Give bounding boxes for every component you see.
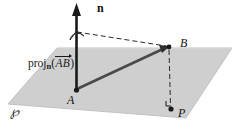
vector-projection-diagram: A B P n ℘ projn(AB) bbox=[0, 0, 235, 133]
point-p-dot bbox=[168, 106, 173, 111]
projection-label: projn(AB) bbox=[28, 58, 74, 70]
dashed-line-n-to-b bbox=[77, 32, 166, 46]
point-label-p: P bbox=[178, 107, 185, 119]
projection-label-word: proj bbox=[28, 58, 47, 70]
projection-label-subscript: n bbox=[47, 62, 52, 71]
point-b-dot bbox=[167, 45, 172, 50]
projection-label-vector: AB bbox=[55, 58, 70, 70]
point-label-a: A bbox=[67, 94, 74, 106]
point-a-dot bbox=[74, 87, 79, 92]
projection-label-close-paren: ) bbox=[70, 58, 74, 70]
normal-vector-arrowhead bbox=[72, 3, 81, 16]
point-label-b: B bbox=[180, 37, 187, 49]
normal-vector-label: n bbox=[97, 2, 104, 14]
plane-label: ℘ bbox=[10, 105, 19, 118]
